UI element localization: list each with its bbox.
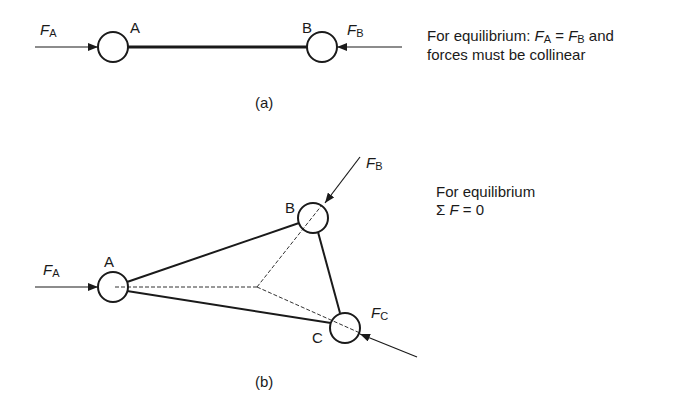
joint-a <box>98 32 128 62</box>
node-b-label: B <box>285 200 295 216</box>
force-b-arrow <box>325 157 360 203</box>
force-c-label: FC <box>371 305 388 324</box>
force-c-arrow <box>360 334 417 357</box>
force-a-label: FA <box>43 262 60 281</box>
equilibrium-note-b-line1: For equilibrium <box>436 183 535 201</box>
joint-c <box>330 313 360 343</box>
node-a-label: A <box>104 254 114 270</box>
equilibrium-note-a-line1: For equilibrium: FA = FB and <box>427 27 614 48</box>
force-a-label: FA <box>40 22 57 41</box>
equilibrium-note-b-line2: Σ F = 0 <box>436 201 484 219</box>
force-b-label: FB <box>347 22 364 41</box>
node-b-label: B <box>302 20 312 36</box>
joint-b <box>307 32 337 62</box>
joint-b <box>298 203 328 233</box>
equilibrium-note-a-line2: forces must be collinear <box>427 46 585 64</box>
node-c-label: C <box>312 330 323 346</box>
force-b-label: FB <box>366 155 383 174</box>
caption-a: (a) <box>255 94 273 112</box>
node-a-label: A <box>130 20 140 36</box>
diagram-b <box>35 157 417 357</box>
caption-b: (b) <box>255 373 273 391</box>
